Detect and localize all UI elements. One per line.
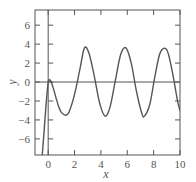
x-axis-label: x <box>102 167 109 181</box>
y-axis-label: y <box>5 79 19 86</box>
y-tick-label: −2 <box>18 95 30 107</box>
y-tick-label: 0 <box>25 76 31 88</box>
y-tick-label: 4 <box>25 38 31 50</box>
x-tick-labels: 0246810 <box>45 158 186 170</box>
y-tick-labels: −6−4−20246 <box>18 19 30 145</box>
y-tick-label: −4 <box>18 114 30 126</box>
x-tick-label: 0 <box>45 158 51 170</box>
y-tick-label: 2 <box>25 57 31 69</box>
reference-lines <box>35 10 180 155</box>
x-tick-label: 6 <box>125 158 131 170</box>
series-line <box>42 47 180 155</box>
x-tick-label: 2 <box>72 158 78 170</box>
y-tick-label: −6 <box>18 133 30 145</box>
x-tick-label: 10 <box>175 158 187 170</box>
x-tick-label: 8 <box>151 158 157 170</box>
line-chart: 0246810 −6−4−20246 x y <box>0 0 196 182</box>
y-tick-label: 6 <box>25 19 31 31</box>
